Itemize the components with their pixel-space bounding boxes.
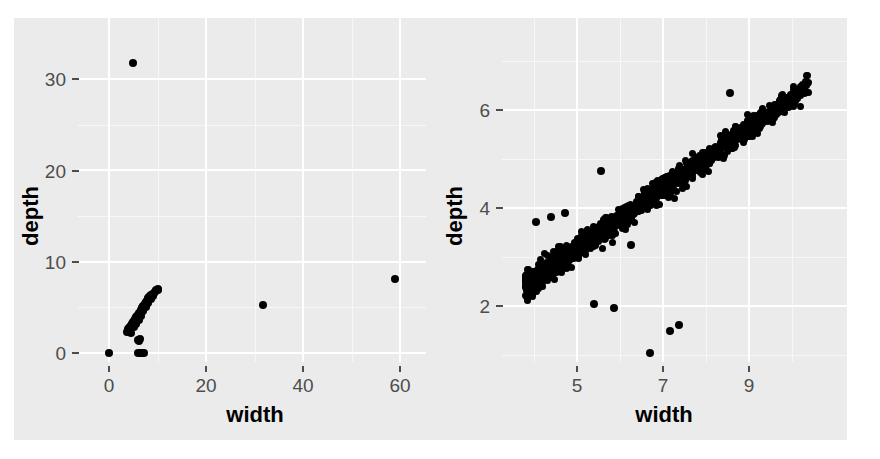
data-point bbox=[617, 216, 624, 223]
right-y-axis-title: depth bbox=[444, 186, 466, 246]
left-x-tick-label: 60 bbox=[389, 376, 410, 395]
right-x-tick-mark bbox=[748, 366, 750, 372]
data-point bbox=[526, 290, 533, 297]
data-point bbox=[604, 221, 611, 228]
left-plot-panel: 30 20 10 0 0 20 40 60 width depth bbox=[0, 0, 440, 459]
gridline-horizontal bbox=[78, 78, 426, 80]
gridline-vertical bbox=[748, 18, 750, 362]
left-y-tick-label: 30 bbox=[45, 70, 66, 89]
minor-gridline-horizontal bbox=[502, 159, 847, 160]
left-y-tick-label: 10 bbox=[45, 253, 66, 272]
data-point bbox=[684, 165, 691, 172]
right-x-tick-label: 9 bbox=[744, 376, 755, 395]
data-point bbox=[689, 157, 696, 164]
data-point bbox=[590, 300, 598, 308]
data-point bbox=[547, 213, 555, 221]
data-point bbox=[659, 175, 666, 182]
data-point bbox=[568, 264, 575, 271]
data-point bbox=[720, 155, 727, 162]
minor-gridline-vertical bbox=[706, 18, 707, 362]
data-point bbox=[726, 89, 734, 97]
minor-gridline-horizontal bbox=[502, 355, 847, 356]
data-point bbox=[544, 252, 551, 259]
right-y-tick-label: 6 bbox=[479, 101, 490, 120]
right-y-tick-label: 4 bbox=[479, 199, 490, 218]
data-point bbox=[129, 59, 137, 67]
right-y-tick-mark bbox=[496, 207, 503, 209]
minor-gridline-vertical bbox=[792, 18, 793, 362]
left-x-tick-mark bbox=[302, 366, 304, 372]
data-point bbox=[536, 267, 543, 274]
left-x-axis-title: width bbox=[226, 404, 283, 426]
data-point bbox=[734, 136, 741, 143]
right-x-tick-label: 5 bbox=[572, 376, 583, 395]
data-point bbox=[135, 337, 143, 345]
left-y-tick-mark bbox=[72, 261, 79, 263]
data-point bbox=[609, 239, 616, 246]
data-point bbox=[140, 349, 148, 357]
left-x-tick-label: 0 bbox=[104, 376, 115, 395]
data-point bbox=[703, 158, 710, 165]
right-x-tick-mark bbox=[576, 366, 578, 372]
gridline-horizontal bbox=[78, 352, 426, 354]
data-point bbox=[692, 167, 699, 174]
data-point bbox=[627, 241, 635, 249]
minor-gridline-vertical bbox=[158, 18, 159, 362]
right-y-tick-mark bbox=[496, 305, 503, 307]
data-point bbox=[717, 132, 724, 139]
scatter-plot-figure: 30 20 10 0 0 20 40 60 width depth 6 4 2 … bbox=[0, 0, 880, 459]
gridline-vertical bbox=[302, 18, 304, 362]
data-point bbox=[574, 247, 581, 254]
data-point bbox=[149, 292, 157, 300]
data-point bbox=[523, 275, 530, 282]
gridline-horizontal bbox=[502, 207, 847, 209]
minor-gridline-vertical bbox=[534, 18, 535, 362]
left-x-tick-mark bbox=[205, 366, 207, 372]
data-point bbox=[652, 179, 659, 186]
data-point bbox=[653, 202, 660, 209]
data-point bbox=[599, 245, 606, 252]
left-x-tick-mark bbox=[399, 366, 401, 372]
left-x-tick-label: 40 bbox=[292, 376, 313, 395]
left-y-tick-label: 20 bbox=[45, 162, 66, 181]
data-point bbox=[774, 109, 781, 116]
minor-gridline-horizontal bbox=[78, 307, 426, 308]
minor-gridline-horizontal bbox=[78, 125, 426, 126]
left-y-tick-label: 0 bbox=[55, 344, 66, 363]
data-point bbox=[646, 349, 654, 357]
data-point bbox=[797, 84, 804, 91]
data-point bbox=[597, 167, 605, 175]
gridline-vertical bbox=[108, 18, 110, 362]
left-x-tick-label: 20 bbox=[195, 376, 216, 395]
data-point bbox=[805, 89, 812, 96]
left-y-tick-mark bbox=[72, 78, 79, 80]
left-y-axis-title: depth bbox=[20, 186, 42, 246]
data-point bbox=[538, 282, 545, 289]
left-y-tick-mark bbox=[72, 352, 79, 354]
data-point bbox=[259, 301, 267, 309]
right-x-tick-label: 7 bbox=[658, 376, 669, 395]
data-point bbox=[105, 349, 113, 357]
data-point bbox=[802, 78, 809, 85]
gridline-horizontal bbox=[78, 261, 426, 263]
left-y-tick-mark bbox=[72, 170, 79, 172]
minor-gridline-vertical bbox=[620, 18, 621, 362]
right-plot-panel: 6 4 2 5 7 9 width depth bbox=[440, 0, 880, 459]
gridline-vertical bbox=[205, 18, 207, 362]
data-point bbox=[744, 111, 751, 118]
data-point bbox=[561, 209, 569, 217]
minor-gridline-horizontal bbox=[502, 61, 847, 62]
left-x-tick-mark bbox=[108, 366, 110, 372]
data-point bbox=[675, 321, 683, 329]
data-point bbox=[666, 327, 674, 335]
data-point bbox=[532, 218, 540, 226]
minor-gridline-vertical bbox=[352, 18, 353, 362]
left-panel-data-area bbox=[78, 18, 426, 362]
right-x-axis-title: width bbox=[635, 404, 692, 426]
gridline-horizontal bbox=[78, 169, 426, 171]
data-point bbox=[756, 125, 763, 132]
data-point bbox=[563, 242, 570, 249]
data-point bbox=[785, 102, 792, 109]
data-point bbox=[682, 175, 689, 182]
data-point bbox=[648, 192, 655, 199]
